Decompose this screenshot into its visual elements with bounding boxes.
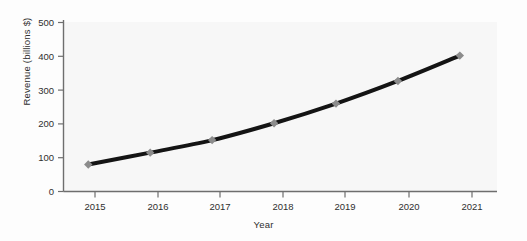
x-axis-title: Year [0,219,527,230]
y-tick-label-0: 0 [20,186,54,197]
revenue-line-chart: 500 400 300 200 100 0 2015 2016 2017 201… [0,0,527,241]
y-axis-ticks [58,23,64,192]
series-markers [84,51,464,168]
x-axis-ticks [95,192,472,198]
y-tick-label-100: 100 [20,152,54,163]
x-tick-label-2016: 2016 [136,201,180,212]
x-tick-label-2020: 2020 [387,201,431,212]
x-tick-label-2017: 2017 [198,201,242,212]
y-axis-title: Revenue (billions $) [21,0,32,132]
x-tick-label-2019: 2019 [323,201,367,212]
x-tick-label-2015: 2015 [73,201,117,212]
series-line-revenue [88,56,460,165]
data-point-2016 [146,148,154,156]
x-tick-label-2018: 2018 [261,201,305,212]
data-point-2017 [208,136,216,144]
x-tick-label-2021: 2021 [450,201,494,212]
data-point-2015 [84,160,92,168]
